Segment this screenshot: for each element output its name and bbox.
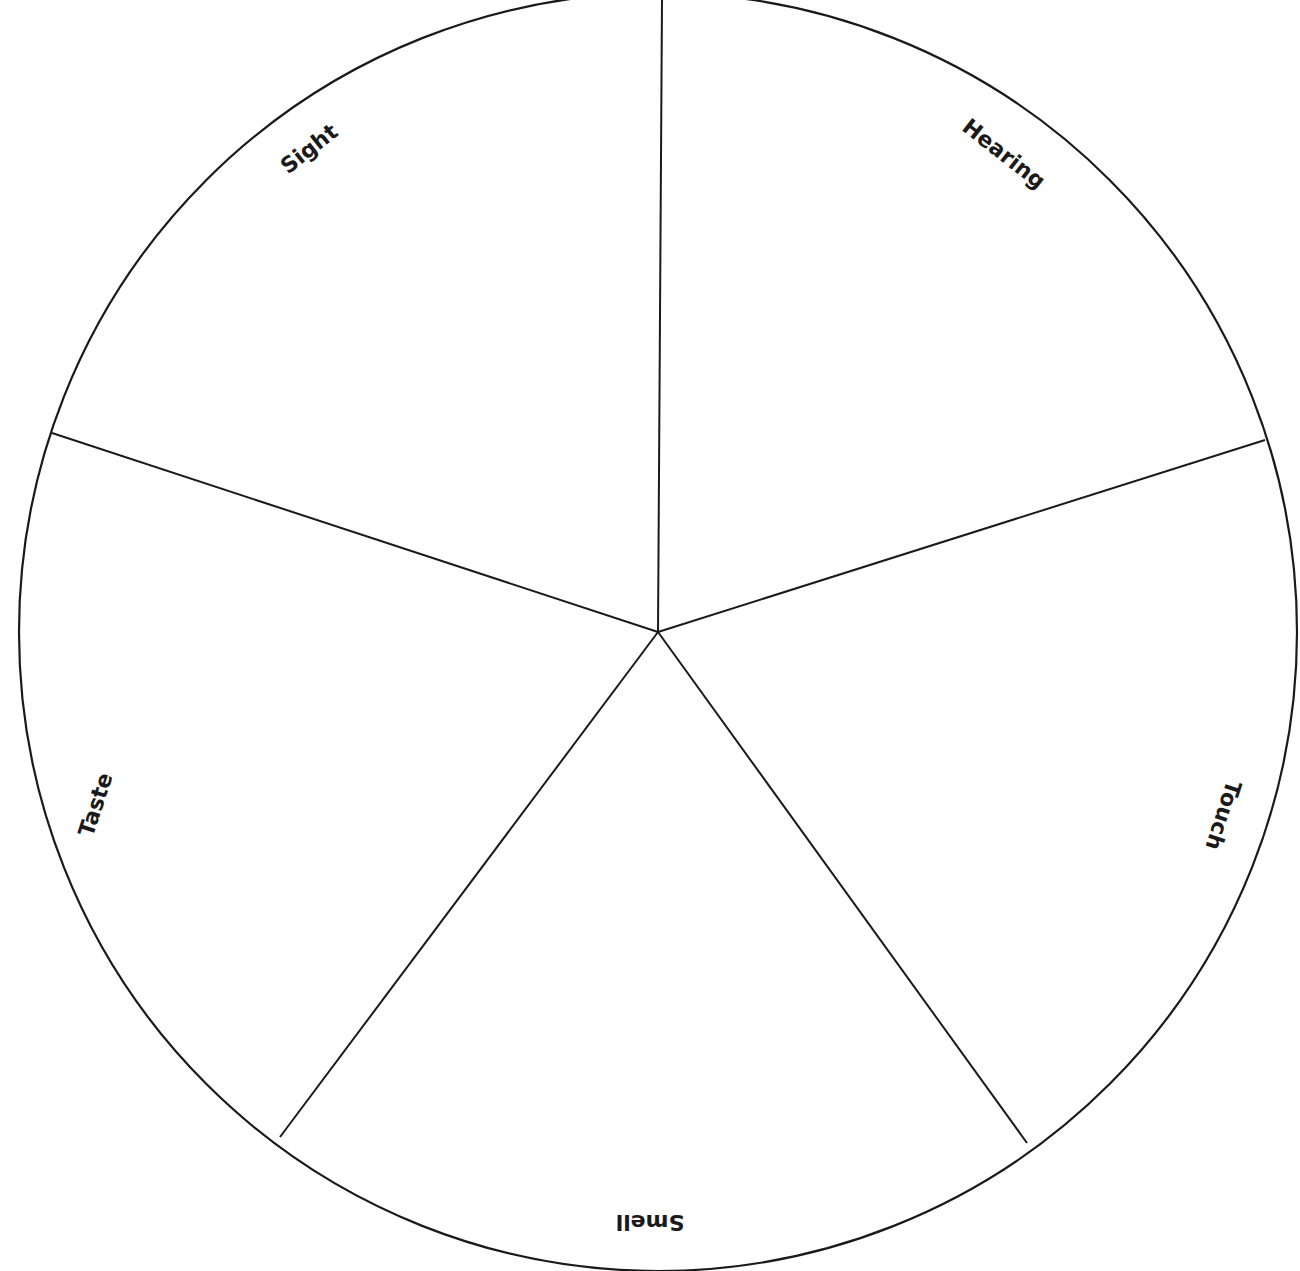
sector-label-sight: Sight	[276, 119, 343, 179]
spoke-line	[280, 632, 658, 1137]
outer-circle	[19, 0, 1297, 1271]
spokes-group	[52, 0, 1265, 1143]
spoke-line	[658, 632, 1027, 1143]
wheel-diagram: Sight Hearing Touch Smell Taste	[0, 0, 1300, 1271]
five-senses-wheel: Sight Hearing Touch Smell Taste	[0, 0, 1300, 1271]
spoke-line	[52, 433, 658, 632]
spoke-line	[658, 0, 662, 632]
sector-label-touch: Touch	[1200, 778, 1246, 854]
spoke-line	[658, 440, 1265, 632]
sector-label-hearing: Hearing	[958, 114, 1051, 194]
sector-label-taste: Taste	[74, 769, 118, 839]
sector-label-smell: Smell	[616, 1210, 685, 1235]
